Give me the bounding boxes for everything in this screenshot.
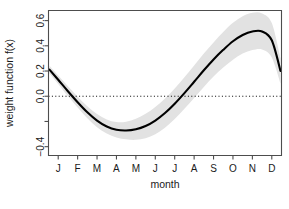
- x-axis-tick-label: F: [75, 163, 81, 174]
- y-axis-title: weight function f(x): [3, 39, 15, 128]
- y-axis-tick-label: 0.6: [35, 13, 46, 27]
- y-axis-tick-label: 0.4: [35, 38, 46, 52]
- y-axis-tick-label: 0.2: [35, 64, 46, 78]
- y-axis-tick-label: 0.0: [35, 89, 46, 103]
- x-axis-tick-label: M: [93, 163, 101, 174]
- x-axis-tick-label: O: [229, 163, 237, 174]
- chart-canvas: 0.60.40.20.0−0.4 JFMAMJJASOND month weig…: [0, 0, 289, 209]
- x-axis-tick-label: J: [153, 163, 158, 174]
- x-axis-tick-label: J: [56, 163, 61, 174]
- x-axis-tick-label: D: [268, 163, 275, 174]
- x-axis-tick-label: N: [249, 163, 256, 174]
- x-axis-tick-label: S: [210, 163, 217, 174]
- y-axis-tick-label: −0.4: [35, 136, 46, 156]
- x-axis-tick-label: J: [172, 163, 177, 174]
- x-axis-tick-label: A: [191, 163, 198, 174]
- chart-container: 0.60.40.20.0−0.4 JFMAMJJASOND month weig…: [0, 0, 289, 209]
- x-axis-tick-label: A: [113, 163, 120, 174]
- x-axis-tick-label: M: [132, 163, 140, 174]
- x-axis-title: month: [150, 178, 179, 190]
